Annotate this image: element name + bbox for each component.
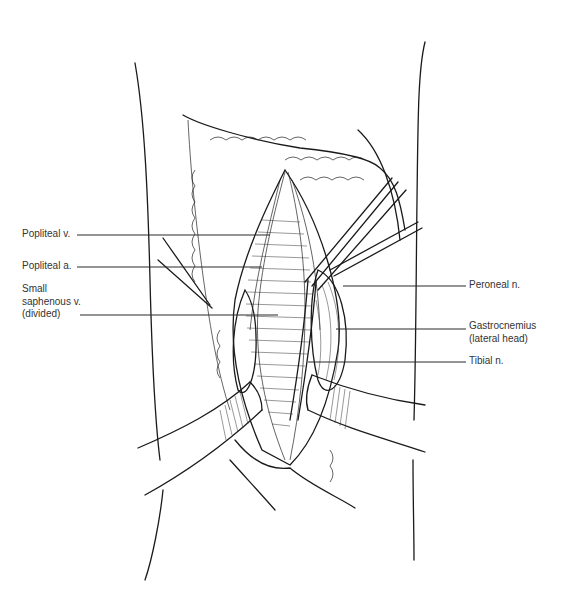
label-popliteal-a: Popliteal a. <box>22 260 71 273</box>
label-small-saphenous-v: Small saphenous v. (divided) <box>22 283 81 321</box>
label-tibial-n: Tibial n. <box>469 355 504 368</box>
right-retractor <box>306 375 425 452</box>
leader-lines <box>77 235 466 362</box>
leg-outline <box>135 42 425 580</box>
label-popliteal-v: Popliteal v. <box>22 228 70 241</box>
lower-skin-flap <box>230 440 355 510</box>
label-gastrocnemius-lateral-head: Gastrocnemius (lateral head) <box>469 320 536 345</box>
popliteal-fossa-illustration <box>0 0 564 596</box>
small-saphenous-ligature <box>158 238 212 308</box>
vessel-loops <box>305 178 422 290</box>
label-peroneal-n: Peroneal n. <box>469 279 520 292</box>
